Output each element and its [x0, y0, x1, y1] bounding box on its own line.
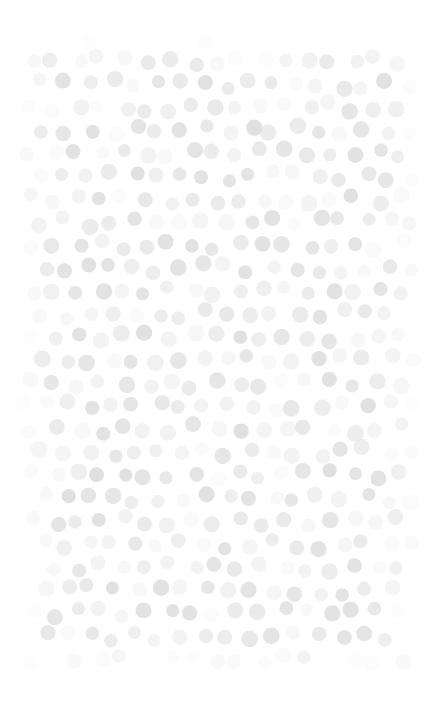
pattern-dot — [268, 261, 281, 274]
pattern-dot — [131, 166, 145, 180]
pattern-dot — [127, 445, 141, 459]
pattern-dot — [176, 494, 190, 508]
pattern-dot — [377, 306, 391, 320]
pattern-dot — [43, 238, 59, 254]
pattern-dot — [397, 233, 412, 248]
pattern-dot — [112, 649, 126, 663]
pattern-dot — [391, 464, 407, 480]
pattern-dot — [295, 463, 311, 479]
pattern-dot — [119, 469, 132, 482]
pattern-dot — [271, 491, 284, 504]
pattern-dot — [391, 328, 405, 342]
pattern-dot — [404, 535, 419, 550]
pattern-dot — [240, 582, 256, 598]
pattern-dot — [255, 236, 271, 252]
pattern-dot — [373, 196, 389, 212]
pattern-dot — [101, 216, 116, 231]
pattern-dot — [256, 281, 272, 297]
pattern-dot — [252, 142, 267, 157]
pattern-dot — [205, 243, 218, 256]
pattern-dot — [49, 419, 65, 435]
pattern-dot — [367, 423, 382, 438]
pattern-dot — [101, 164, 117, 180]
pattern-dot — [184, 98, 199, 113]
pattern-dot — [134, 469, 150, 485]
pattern-dot — [285, 493, 298, 506]
pattern-dot — [218, 542, 231, 555]
pattern-dot — [210, 196, 225, 211]
pattern-dot — [283, 353, 300, 370]
pattern-dot — [358, 265, 371, 278]
pattern-dot — [132, 582, 146, 596]
pattern-dot — [295, 420, 310, 435]
pattern-dot — [245, 215, 259, 229]
pattern-dot — [92, 192, 106, 206]
pattern-dot — [234, 285, 248, 299]
pattern-dot — [24, 187, 38, 201]
pattern-dot — [223, 174, 236, 187]
pattern-dot — [128, 537, 142, 551]
pattern-dot — [185, 416, 201, 432]
pattern-dot — [315, 449, 330, 464]
pattern-dot — [241, 168, 254, 181]
pattern-dot — [369, 373, 385, 389]
pattern-dot — [348, 147, 364, 163]
pattern-dot — [187, 142, 203, 158]
pattern-dot — [385, 348, 401, 364]
pattern-dot — [393, 287, 407, 301]
pattern-dot — [238, 265, 252, 279]
pattern-dot — [219, 306, 234, 321]
pattern-dot — [234, 511, 248, 525]
pattern-dot — [385, 579, 401, 595]
pattern-dot — [343, 188, 358, 203]
pattern-dot — [279, 54, 293, 68]
pattern-dot — [370, 470, 386, 486]
pattern-dot — [353, 349, 369, 365]
pattern-dot — [314, 210, 330, 226]
pattern-dot — [159, 471, 172, 484]
pattern-dot — [75, 55, 88, 68]
pattern-dot — [136, 602, 152, 618]
pattern-dot — [137, 560, 151, 574]
pattern-dot — [115, 610, 129, 624]
pattern-dot — [47, 562, 61, 576]
pattern-dot — [198, 302, 213, 317]
pattern-dot — [349, 467, 362, 480]
pattern-dot — [194, 170, 208, 184]
pattern-dot — [148, 167, 163, 182]
pattern-dot — [118, 509, 133, 524]
pattern-dot — [52, 468, 66, 482]
pattern-dot — [300, 331, 316, 347]
pattern-dot — [81, 258, 96, 273]
pattern-dot — [106, 581, 119, 594]
pattern-dot — [203, 144, 219, 160]
pattern-dot — [240, 73, 256, 89]
pattern-dot — [157, 149, 173, 165]
pattern-dot — [55, 168, 68, 181]
pattern-dot — [373, 560, 386, 573]
pattern-dot — [210, 57, 225, 72]
pattern-dot — [204, 516, 220, 532]
pattern-dot — [305, 100, 319, 114]
pattern-dot — [321, 563, 338, 580]
pattern-dot — [333, 441, 348, 456]
pattern-dot — [228, 101, 241, 114]
pattern-dot — [324, 239, 339, 254]
pattern-dot — [348, 237, 362, 251]
pattern-dot — [186, 193, 200, 207]
pattern-dot — [95, 234, 110, 249]
pattern-dot — [31, 441, 48, 458]
pattern-dot — [311, 351, 326, 366]
pattern-dot — [124, 496, 138, 510]
pattern-dot — [118, 144, 131, 157]
pattern-dot — [96, 427, 110, 441]
pattern-dot — [146, 265, 161, 280]
pattern-dot — [72, 564, 86, 578]
pattern-dot — [390, 604, 404, 618]
pattern-dot — [55, 73, 71, 89]
pattern-dot — [107, 71, 123, 87]
pattern-dot — [378, 172, 394, 188]
pattern-dot — [104, 634, 118, 648]
pattern-dot — [298, 564, 311, 577]
pattern-dot — [93, 332, 109, 348]
